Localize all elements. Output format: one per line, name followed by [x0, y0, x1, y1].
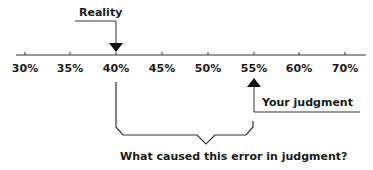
- tick-label-50: 50%: [195, 62, 221, 75]
- tick-label-45: 45%: [149, 62, 175, 75]
- diagram-graphics: [0, 0, 373, 170]
- tick-label-40: 40%: [103, 62, 129, 75]
- brace-caption: What caused this error in judgment?: [120, 150, 348, 163]
- tick-label-35: 35%: [57, 62, 83, 75]
- error-brace: [116, 82, 253, 144]
- reality-label: Reality: [79, 6, 122, 19]
- reality-leader: [75, 21, 116, 43]
- tick-label-60: 60%: [286, 62, 312, 75]
- judgment-label: Your judgment: [262, 96, 353, 109]
- tick-label-70: 70%: [332, 62, 358, 75]
- tick-label-55: 55%: [241, 62, 267, 75]
- reality-arrow-icon: [109, 43, 123, 52]
- judgment-arrow-icon: [247, 78, 261, 87]
- tick-label-30: 30%: [12, 62, 38, 75]
